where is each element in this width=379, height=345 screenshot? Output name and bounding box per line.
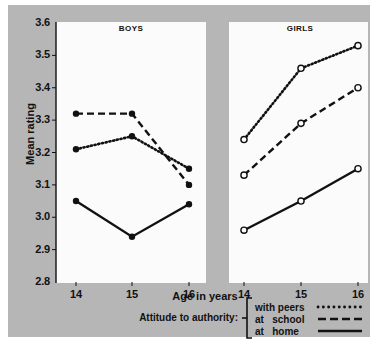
legend-label-at-school: at school xyxy=(255,314,304,325)
y-tick-label: 2.8 xyxy=(22,275,50,287)
legend-caption: Attitude to authority: xyxy=(128,312,238,323)
x-tick-label: 16 xyxy=(346,288,370,300)
y-tick-label: 3.1 xyxy=(22,178,50,190)
y-axis-label: Mean rating xyxy=(24,84,36,184)
y-tick-label: 3.5 xyxy=(22,48,50,60)
y-tick-label: 3.6 xyxy=(22,16,50,28)
y-tick-label: 3.2 xyxy=(22,146,50,158)
x-tick-label: 16 xyxy=(177,288,201,300)
x-tick-label: 15 xyxy=(289,288,313,300)
legend-label-at-home: at home xyxy=(255,326,299,337)
x-tick-label: 14 xyxy=(232,288,256,300)
y-tick-label: 2.9 xyxy=(22,243,50,255)
x-tick-label: 14 xyxy=(64,288,88,300)
legend-label-with-peers: with peers xyxy=(255,302,304,313)
panel-title-girls: GIRLS xyxy=(255,24,345,33)
y-tick-label: 3.0 xyxy=(22,210,50,222)
panel-title-boys: BOYS xyxy=(86,24,176,33)
y-tick-label: 3.3 xyxy=(22,113,50,125)
figure: Mean rating Age in years BOYS GIRLS Atti… xyxy=(0,0,379,345)
y-tick-label: 3.4 xyxy=(22,81,50,93)
x-tick-label: 15 xyxy=(120,288,144,300)
